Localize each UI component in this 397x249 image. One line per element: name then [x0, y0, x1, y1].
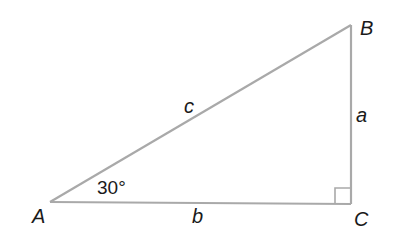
angle-label-30: 30° [97, 177, 126, 198]
side-label-b: b [192, 205, 203, 227]
side-label-a: a [356, 104, 367, 126]
right-angle-marker [335, 188, 351, 204]
side-b-line [50, 202, 351, 204]
vertex-label-c-upper: C [354, 208, 369, 230]
triangle-diagram: A B C c a b 30° [0, 0, 397, 249]
side-label-c: c [184, 95, 194, 117]
vertex-label-b-upper: B [360, 17, 373, 39]
vertex-label-a-upper: A [31, 205, 45, 227]
side-c-line [50, 25, 351, 202]
triangle-sides [50, 25, 351, 204]
